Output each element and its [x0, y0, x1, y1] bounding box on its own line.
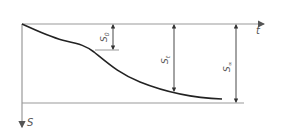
settlement-diagram: t S S0 St S∞ [0, 0, 282, 135]
settlement-axis-label: S [27, 117, 34, 128]
s-inf-label: S∞ [222, 61, 233, 72]
s0-label: S0 [99, 32, 110, 42]
settlement-curve [22, 24, 222, 99]
time-axis-label: t [256, 25, 261, 36]
st-label: St [160, 55, 171, 64]
